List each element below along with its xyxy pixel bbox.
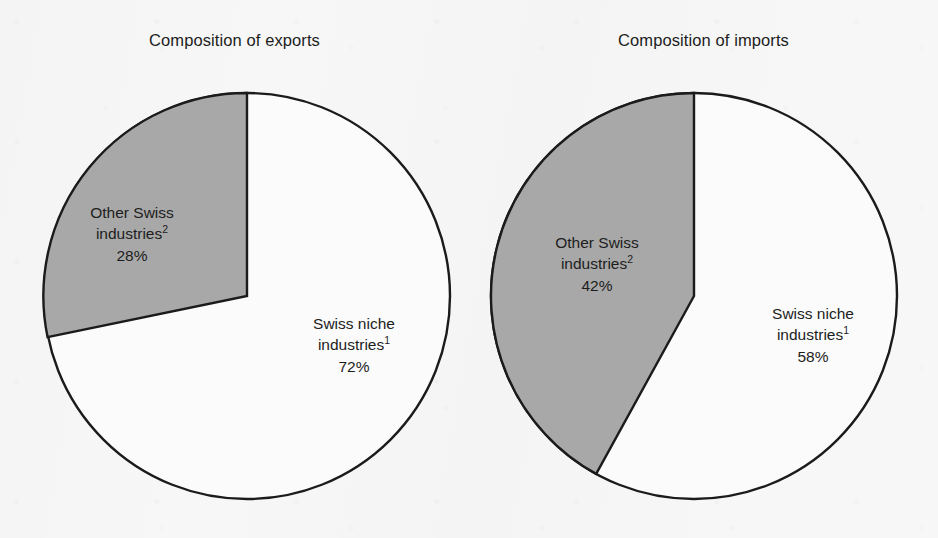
slice-label-footnote: 1 <box>384 334 390 346</box>
slice-label-imports-niche: Swiss niche industries1 58% <box>727 303 899 367</box>
pie-chart-imports: Composition of imports Other Swiss indus… <box>469 0 938 538</box>
slice-label-line1: Swiss niche <box>313 315 395 332</box>
slice-label-line1: Other Swiss <box>555 234 639 251</box>
slice-label-line2: industries <box>318 336 384 353</box>
slice-label-percent: 28% <box>116 247 147 264</box>
slice-label-footnote: 2 <box>162 223 168 235</box>
pie-svg-imports <box>469 80 938 520</box>
pie-svg-exports <box>0 80 469 520</box>
slice-label-percent: 42% <box>581 277 612 294</box>
chart-title-imports: Composition of imports <box>469 31 938 50</box>
slice-label-footnote: 1 <box>843 324 849 336</box>
slice-label-line2: industries <box>777 326 843 343</box>
slice-label-line1: Swiss niche <box>772 305 854 322</box>
slice-label-percent: 58% <box>797 348 828 365</box>
slice-label-line2: industries <box>561 255 627 272</box>
slice-label-line1: Other Swiss <box>90 204 174 221</box>
slice-label-percent: 72% <box>338 358 369 375</box>
slice-label-exports-niche: Swiss niche industries1 72% <box>268 313 440 377</box>
chart-title-exports: Composition of exports <box>0 31 469 50</box>
pie-chart-exports: Composition of exports Other Swiss indus… <box>0 0 469 538</box>
slice-label-exports-other: Other Swiss industries2 28% <box>46 202 218 266</box>
figure-canvas: Composition of exports Other Swiss indus… <box>0 0 938 538</box>
slice-label-imports-other: Other Swiss industries2 42% <box>511 232 683 296</box>
slice-label-footnote: 2 <box>627 253 633 265</box>
slice-label-line2: industries <box>96 225 162 242</box>
